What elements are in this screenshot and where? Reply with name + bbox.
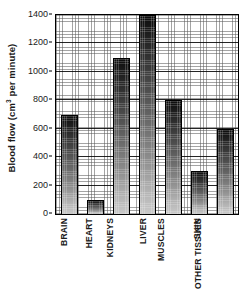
plot-area — [55, 14, 239, 215]
y-tick-label-800: 800 — [33, 94, 48, 104]
x-tick-label-text: OTHER TISSUES — [193, 218, 203, 289]
y-axis-title-tail: per minute) — [6, 44, 17, 100]
y-tick-mark-800 — [49, 99, 52, 100]
x-tick-label-text: BRAIN — [59, 218, 69, 246]
y-tick-label-200: 200 — [33, 180, 48, 190]
bar-kidneys — [113, 58, 130, 214]
x-tick-label-text: MUSCLES — [156, 218, 166, 261]
y-tick-mark-1400 — [49, 14, 52, 15]
bar-heart — [87, 200, 104, 214]
y-tick-label-1200: 1200 — [28, 37, 48, 47]
bar-muscles — [165, 100, 182, 214]
y-tick-mark-600 — [49, 127, 52, 128]
x-axis-tick-labels: BRAINHEARTKIDNEYSLIVERMUSCLESSKINOTHER T… — [55, 216, 237, 288]
y-axis-tick-labels: 0200400600800100012001400 — [20, 0, 52, 216]
y-axis-title: Blood flow (cm3 per minute) — [0, 0, 22, 216]
y-tick-label-1400: 1400 — [28, 9, 48, 19]
x-tick-label-text: LIVER — [138, 218, 148, 244]
y-tick-mark-1000 — [49, 70, 52, 71]
bar-liver — [139, 15, 156, 214]
y-axis-title-text: Blood flow (cm3 per minute) — [5, 44, 17, 173]
bar-other-tissues — [217, 129, 234, 214]
y-tick-mark-200 — [49, 184, 52, 185]
y-tick-mark-400 — [49, 156, 52, 157]
y-tick-mark-0 — [49, 213, 52, 214]
x-tick-muscles: MUSCLES — [159, 216, 185, 288]
x-tick-other-tissues: OTHER TISSUES — [211, 216, 237, 288]
bar-skin — [191, 171, 208, 214]
x-tick-label-text: KIDNEYS — [105, 218, 115, 257]
x-tick-brain: BRAIN — [55, 216, 81, 288]
y-axis-title-superscript: 3 — [5, 99, 12, 103]
y-tick-label-0: 0 — [43, 208, 48, 218]
y-tick-label-1000: 1000 — [28, 66, 48, 76]
x-tick-label-text: HEART — [84, 218, 94, 248]
y-tick-mark-1200 — [49, 42, 52, 43]
y-tick-label-400: 400 — [33, 151, 48, 161]
x-tick-kidneys: KIDNEYS — [107, 216, 133, 288]
x-tick-heart: HEART — [81, 216, 107, 288]
y-axis-title-main: Blood flow (cm — [6, 103, 17, 172]
y-tick-label-600: 600 — [33, 123, 48, 133]
bar-brain — [61, 115, 78, 215]
